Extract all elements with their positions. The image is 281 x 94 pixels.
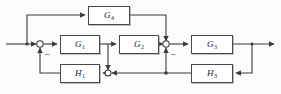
branch-node-h1-in: [105, 70, 111, 76]
minus-sign-left: –: [45, 50, 49, 58]
summing-junction-right: [163, 41, 169, 47]
block-g1[interactable]: G1: [60, 35, 100, 54]
block-g4-label: G4: [104, 11, 114, 20]
block-g2-label: G2: [134, 40, 144, 49]
wire-h1-sum: [40, 48, 60, 73]
summing-junction-left: [37, 41, 43, 47]
block-h3-label: H3: [207, 69, 217, 78]
block-g4[interactable]: G4: [88, 6, 130, 25]
minus-sign-right: –: [171, 50, 175, 58]
block-g3-label: G3: [207, 40, 217, 49]
block-h1[interactable]: H1: [60, 64, 100, 83]
block-diagram: G4 G1 G2 G3 H1 H3 – –: [0, 0, 281, 94]
block-h1-label: H1: [75, 69, 85, 78]
wire-output-h3: [236, 44, 252, 73]
branch-node-output-tap: [251, 43, 254, 46]
block-g2[interactable]: G2: [119, 35, 159, 54]
branch-node-input-tap: [25, 42, 28, 45]
block-h3[interactable]: H3: [191, 64, 233, 83]
branch-node-feedback: [164, 71, 168, 75]
block-g3[interactable]: G3: [191, 35, 233, 54]
block-g1-label: G1: [75, 40, 85, 49]
